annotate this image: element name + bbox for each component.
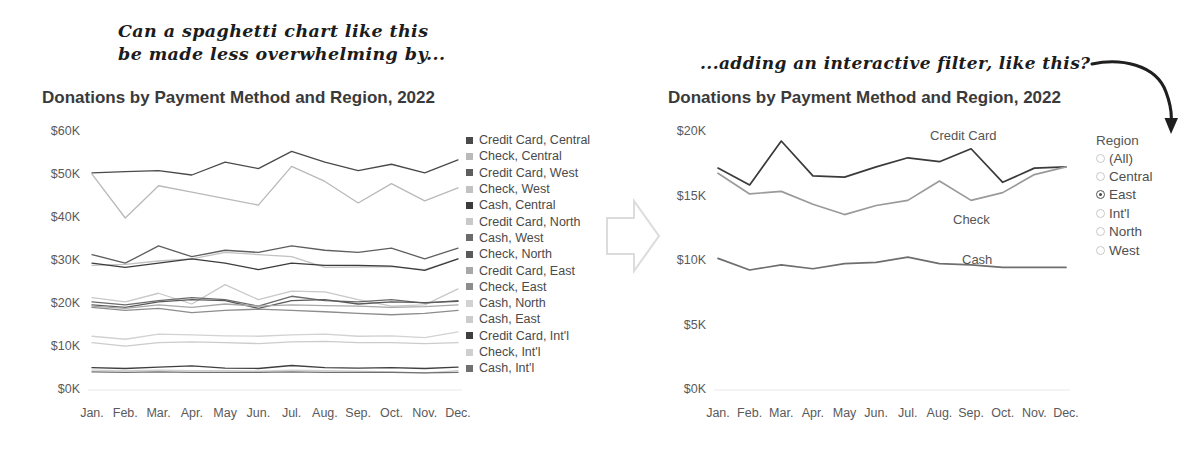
- legend-item[interactable]: Credit Card, East: [466, 262, 626, 278]
- screenshot-canvas: Can a spaghetti chart like this be made …: [0, 0, 1199, 456]
- legend-item[interactable]: Cash, West: [466, 230, 626, 246]
- region-filter-option[interactable]: North: [1096, 223, 1191, 241]
- legend-item[interactable]: Check, North: [466, 246, 626, 262]
- legend-item-label: Check, Int'l: [479, 345, 540, 359]
- region-filter-option-label: (All): [1109, 151, 1133, 166]
- right-block-arrow-icon: [604, 198, 662, 274]
- legend-item-label: Credit Card, Int'l: [479, 329, 569, 343]
- legend-item[interactable]: Check, Central: [466, 148, 626, 164]
- series-line: [92, 341, 458, 346]
- legend-color-swatch: [466, 267, 473, 274]
- legend-item[interactable]: Credit Card, Int'l: [466, 328, 626, 344]
- radio-unselected-icon[interactable]: [1096, 172, 1105, 181]
- region-filter-option[interactable]: Int'l: [1096, 204, 1191, 222]
- region-filter-option-label: Int'l: [1109, 206, 1130, 221]
- series-line: [92, 365, 458, 368]
- legend-item[interactable]: Credit Card, Central: [466, 132, 626, 148]
- left-chart-title: Donations by Payment Method and Region, …: [42, 88, 435, 108]
- radio-unselected-icon[interactable]: [1096, 154, 1105, 163]
- legend-item[interactable]: Cash, East: [466, 311, 626, 327]
- right-plot-area: [660, 126, 1080, 426]
- legend-item-label: Check, North: [479, 247, 552, 261]
- series-inline-label: Check: [953, 212, 990, 227]
- legend-item[interactable]: Cash, North: [466, 295, 626, 311]
- legend-item[interactable]: Cash, Central: [466, 197, 626, 213]
- legend-color-swatch: [466, 365, 473, 372]
- x-axis-tick-label: Dec.: [1043, 406, 1089, 420]
- legend-item[interactable]: Check, Int'l: [466, 344, 626, 360]
- annotation-left: Can a spaghetti chart like this be made …: [118, 20, 445, 66]
- legend-color-swatch: [466, 218, 473, 225]
- region-filter-title: Region: [1096, 133, 1191, 148]
- left-chart-legend: Credit Card, CentralCheck, CentralCredit…: [466, 132, 626, 376]
- region-filter-option-label: West: [1109, 243, 1140, 258]
- region-filter-option-label: East: [1109, 187, 1136, 202]
- legend-color-swatch: [466, 153, 473, 160]
- legend-item-label: Cash, West: [479, 231, 543, 245]
- legend-color-swatch: [466, 300, 473, 307]
- series-line: [718, 257, 1066, 270]
- legend-item-label: Credit Card, Central: [479, 133, 590, 147]
- legend-color-swatch: [466, 349, 473, 356]
- legend-color-swatch: [466, 169, 473, 176]
- legend-item[interactable]: Credit Card, West: [466, 165, 626, 181]
- region-filter-option[interactable]: East: [1096, 186, 1191, 204]
- legend-item[interactable]: Cash, Int'l: [466, 360, 626, 376]
- legend-item[interactable]: Check, East: [466, 279, 626, 295]
- series-line: [92, 246, 458, 263]
- legend-item-label: Cash, North: [479, 296, 546, 310]
- region-filter-option-label: Central: [1109, 169, 1153, 184]
- legend-item-label: Check, West: [479, 182, 550, 196]
- region-filter-option[interactable]: (All): [1096, 149, 1191, 167]
- legend-color-swatch: [466, 316, 473, 323]
- annotation-right: ...adding an interactive filter, like th…: [700, 52, 1090, 74]
- series-line: [92, 259, 458, 271]
- series-inline-label: Credit Card: [930, 128, 996, 143]
- series-line: [718, 167, 1066, 215]
- series-line: [92, 285, 458, 307]
- region-filter-option-label: North: [1109, 224, 1142, 239]
- region-filter-option[interactable]: West: [1096, 241, 1191, 259]
- series-line: [92, 372, 458, 373]
- radio-selected-icon[interactable]: [1096, 190, 1105, 199]
- legend-item-label: Cash, East: [479, 312, 540, 326]
- legend-item-label: Check, Central: [479, 149, 562, 163]
- curved-down-arrow-icon: [1090, 58, 1195, 143]
- region-filter-option[interactable]: Central: [1096, 167, 1191, 185]
- series-inline-label: Cash: [962, 252, 992, 267]
- legend-item-label: Check, East: [479, 280, 546, 294]
- legend-color-swatch: [466, 186, 473, 193]
- legend-color-swatch: [466, 202, 473, 209]
- legend-item-label: Cash, Int'l: [479, 361, 534, 375]
- legend-item-label: Credit Card, North: [479, 215, 580, 229]
- legend-color-swatch: [466, 234, 473, 241]
- legend-item-label: Cash, Central: [479, 198, 555, 212]
- legend-item[interactable]: Check, West: [466, 181, 626, 197]
- series-line: [92, 332, 458, 339]
- radio-unselected-icon[interactable]: [1096, 227, 1105, 236]
- x-axis-tick-label: Dec.: [435, 406, 481, 420]
- radio-unselected-icon[interactable]: [1096, 246, 1105, 255]
- legend-item-label: Credit Card, West: [479, 166, 578, 180]
- series-line: [92, 151, 458, 175]
- series-line: [718, 141, 1066, 185]
- legend-item[interactable]: Credit Card, North: [466, 213, 626, 229]
- legend-color-swatch: [466, 283, 473, 290]
- region-filter-panel[interactable]: Region (All)CentralEastInt'lNorthWest: [1096, 133, 1191, 259]
- legend-color-swatch: [466, 137, 473, 144]
- right-chart-title: Donations by Payment Method and Region, …: [668, 88, 1061, 108]
- series-line: [92, 166, 458, 218]
- legend-color-swatch: [466, 332, 473, 339]
- right-filtered-chart: $0K$5K$10K$15K$20K Jan.Feb.Mar.Apr.MayJu…: [660, 126, 1080, 426]
- series-line: [92, 307, 458, 314]
- legend-item-label: Credit Card, East: [479, 264, 575, 278]
- radio-unselected-icon[interactable]: [1096, 209, 1105, 218]
- legend-color-swatch: [466, 251, 473, 258]
